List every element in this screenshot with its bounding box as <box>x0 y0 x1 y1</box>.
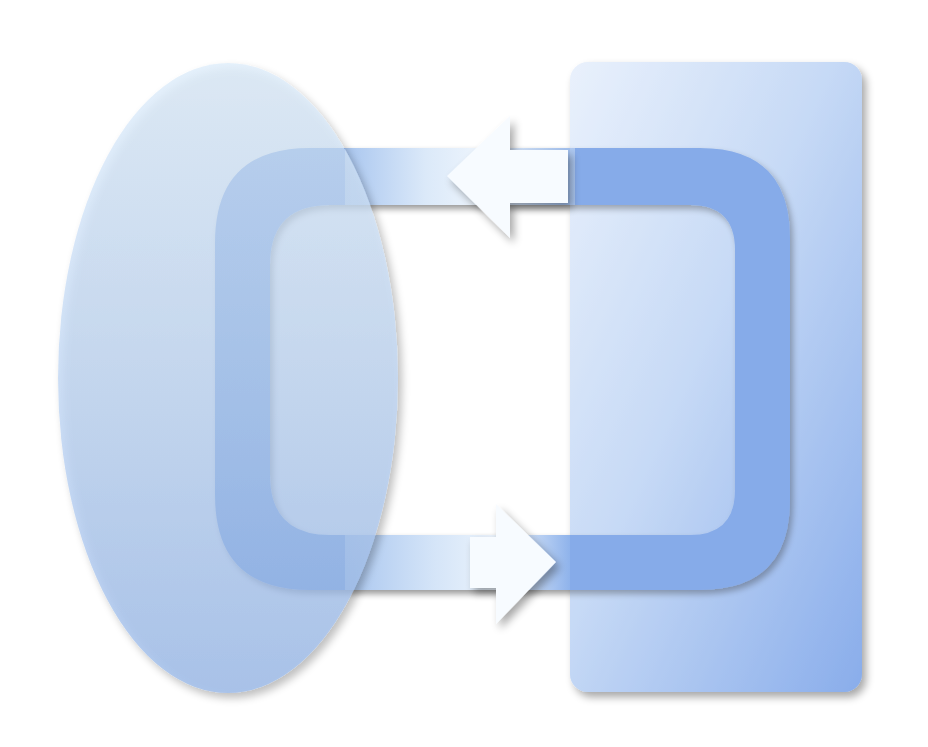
arrow-right-icon <box>350 504 556 624</box>
arrow-left-icon <box>447 116 568 238</box>
right-entity-overlay <box>570 62 862 692</box>
left-entity-ellipse <box>58 63 398 693</box>
diagram-canvas <box>0 0 928 747</box>
cycle-diagram <box>0 0 928 747</box>
